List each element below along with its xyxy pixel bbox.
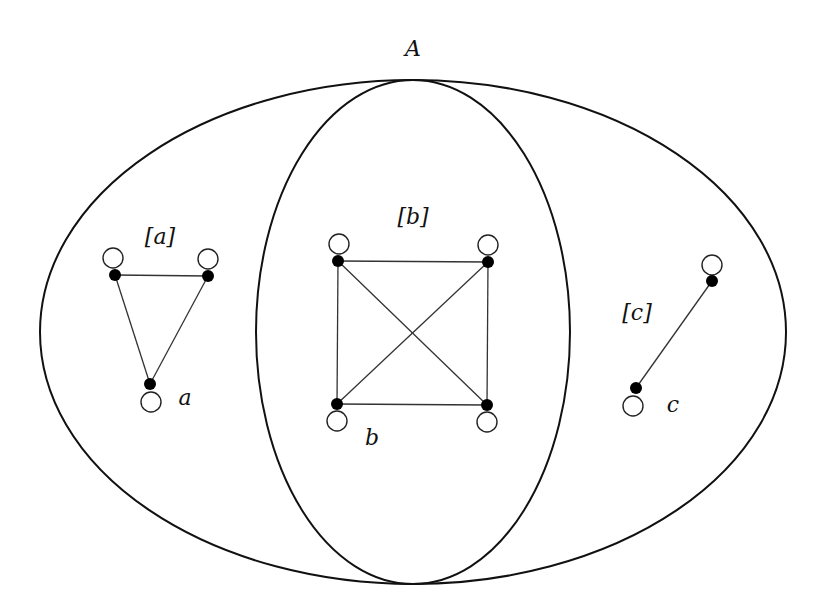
equivalence-class-diagram: A [a] a [b] b [c] c — [0, 0, 824, 609]
element-node — [481, 399, 493, 411]
class-label-a: [a] — [145, 224, 176, 249]
reflexive-loop-icon — [141, 392, 161, 412]
reflexive-loop-icon — [329, 234, 349, 254]
class-c-graph: [c] c — [622, 255, 722, 417]
class-label-b: [b] — [397, 204, 429, 229]
relation-edge — [150, 276, 208, 384]
element-label-c: c — [667, 392, 679, 417]
relation-edge — [115, 275, 208, 276]
class-label-c: [c] — [622, 300, 652, 325]
reflexive-loop-icon — [477, 412, 497, 432]
set-label-A: A — [403, 36, 421, 61]
reflexive-loop-icon — [327, 411, 347, 431]
reflexive-loop-icon — [478, 235, 498, 255]
element-node — [202, 270, 214, 282]
relation-edge — [115, 275, 150, 384]
element-node — [482, 256, 494, 268]
relation-edge — [337, 261, 338, 404]
element-node — [630, 382, 642, 394]
element-node — [706, 275, 718, 287]
relation-edge — [337, 404, 487, 405]
relation-edge — [487, 262, 488, 405]
class-b-graph: [b] b — [327, 204, 498, 450]
element-node — [332, 255, 344, 267]
relation-edge — [338, 261, 487, 405]
element-node — [109, 269, 121, 281]
class-a-graph: [a] a — [103, 224, 218, 412]
reflexive-loop-icon — [103, 248, 123, 268]
reflexive-loop-icon — [623, 396, 643, 416]
relation-edge — [338, 261, 488, 262]
element-node — [331, 398, 343, 410]
element-label-b: b — [365, 425, 379, 450]
element-label-a: a — [178, 385, 191, 410]
reflexive-loop-icon — [702, 255, 722, 275]
element-node — [144, 378, 156, 390]
reflexive-loop-icon — [198, 249, 218, 269]
relation-edge — [636, 281, 712, 388]
